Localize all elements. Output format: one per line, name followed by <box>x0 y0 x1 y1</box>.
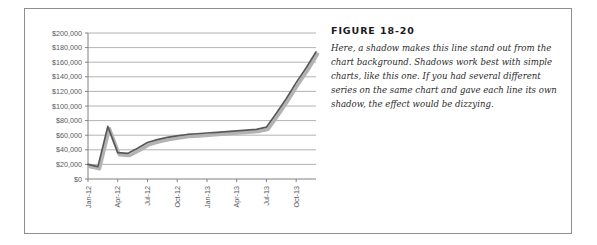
caption-panel: FIGURE 18-20 Here, a shadow makes this l… <box>331 25 559 112</box>
y-tick-label: $60,000 <box>56 131 82 140</box>
line-chart: $200,000$180,000$160,000$140,000$120,000… <box>25 9 325 235</box>
y-tick-label: $80,000 <box>56 116 82 125</box>
y-tick-label: $20,000 <box>56 160 82 169</box>
y-tick-label: $200,000 <box>52 29 82 38</box>
x-tick-label: Apr-13 <box>232 186 241 208</box>
figure-label: FIGURE 18-20 <box>331 25 559 36</box>
chart-panel: $200,000$180,000$160,000$140,000$120,000… <box>25 9 325 235</box>
y-tick-label: $40,000 <box>56 145 82 154</box>
x-tick-label: Jan-12 <box>84 186 93 208</box>
x-tick-label: Jul-13 <box>262 186 271 206</box>
y-tick-label: $120,000 <box>52 87 82 96</box>
x-tick-label: Jan-13 <box>203 186 212 208</box>
y-tick-label: $160,000 <box>52 58 82 67</box>
figure-frame: $200,000$180,000$160,000$140,000$120,000… <box>24 8 572 234</box>
x-axis-tick-labels: Jan-12Apr-12Jul-12Oct-12Jan-13Apr-13Jul-… <box>84 186 301 208</box>
y-tick-label: $180,000 <box>52 43 82 52</box>
y-tick-label: $140,000 <box>52 72 82 81</box>
y-axis-tick-labels: $200,000$180,000$160,000$140,000$120,000… <box>52 29 82 184</box>
x-tick-label: Oct-12 <box>173 186 182 208</box>
x-tick-label: Jul-12 <box>143 186 152 206</box>
x-tick-label: Oct-13 <box>292 186 301 208</box>
y-tick-label: $0 <box>74 175 82 184</box>
y-tick-label: $100,000 <box>52 102 82 111</box>
figure-caption: Here, a shadow makes this line stand out… <box>331 42 559 112</box>
x-tick-label: Apr-12 <box>113 186 122 208</box>
